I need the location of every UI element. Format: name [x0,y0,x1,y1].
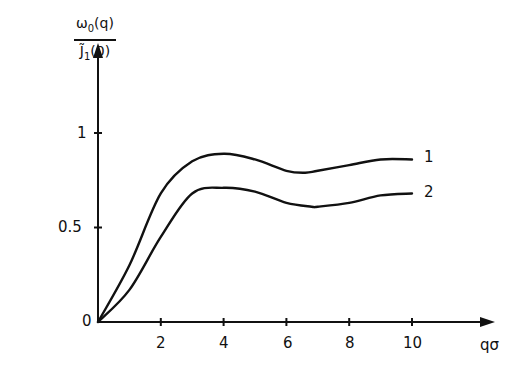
x-tick-label-8: 8 [345,334,355,352]
y-axis-label: ω0(q) J̃1(0) [74,14,116,66]
x-tick-label-2: 2 [156,334,166,352]
curve-2 [98,188,412,322]
x-axis-arrow-icon [480,317,495,327]
y-tick-label-1: 1 [77,124,87,142]
curve-1 [98,154,412,322]
curve-label-1: 1 [424,148,434,166]
x-tick-label-6: 6 [283,334,293,352]
origin-label: 0 [82,312,92,330]
y-tick-label-0.5: 0.5 [58,218,82,236]
curves [98,154,412,322]
x-axis-label: qσ [480,336,499,354]
x-tick-label-4: 4 [219,334,229,352]
x-tick-label-10: 10 [403,334,422,352]
curve-label-2: 2 [424,183,434,201]
